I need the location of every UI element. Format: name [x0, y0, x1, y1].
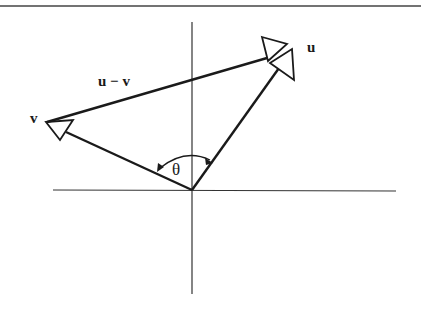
label-u: u	[307, 39, 315, 55]
label-theta: θ	[172, 160, 180, 179]
angle-arc-arrow-left-icon	[157, 163, 164, 172]
label-v: v	[30, 110, 38, 126]
vector-u-minus-v-line	[47, 58, 267, 122]
vector-v-arrowhead	[46, 120, 73, 140]
x-axis	[53, 190, 396, 191]
label-u-minus-v: u − v	[98, 73, 130, 89]
vector-u-line	[192, 68, 279, 190]
angle-arc	[160, 156, 210, 169]
vector-diagram: u − v u v θ	[0, 0, 421, 309]
